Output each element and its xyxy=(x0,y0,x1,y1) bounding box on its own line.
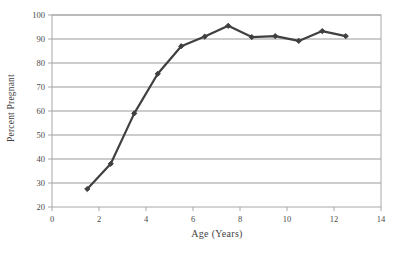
data-series-line xyxy=(87,26,346,189)
gridlines-group xyxy=(52,15,381,183)
x-tick-label: 6 xyxy=(191,214,195,224)
x-tick-label: 14 xyxy=(377,214,386,224)
y-tick-label: 80 xyxy=(37,58,46,68)
y-axis-ticks-group: 2030405060708090100 xyxy=(32,10,52,212)
y-tick-label: 100 xyxy=(32,10,45,20)
x-tick-label: 2 xyxy=(97,214,101,224)
x-tick-label: 0 xyxy=(50,214,54,224)
chart-container: Percent Pregnant 2030405060708090100 024… xyxy=(0,0,394,258)
y-tick-label: 60 xyxy=(37,106,46,116)
x-tick-label: 12 xyxy=(330,214,339,224)
x-axis-title: Age (Years) xyxy=(52,228,382,239)
data-point-marker xyxy=(343,34,348,39)
x-tick-label: 10 xyxy=(283,214,292,224)
x-tick-label: 4 xyxy=(144,214,149,224)
data-point-marker xyxy=(273,34,278,39)
y-tick-label: 90 xyxy=(37,34,46,44)
y-tick-label: 40 xyxy=(37,154,46,164)
y-tick-label: 20 xyxy=(37,202,46,212)
y-tick-label: 50 xyxy=(37,130,46,140)
data-point-markers xyxy=(85,23,349,191)
y-tick-label: 30 xyxy=(37,178,46,188)
y-tick-label: 70 xyxy=(37,82,46,92)
x-axis-ticks-group: 02468101214 xyxy=(50,207,386,224)
x-tick-label: 8 xyxy=(238,214,242,224)
plot-svg: 2030405060708090100 02468101214 xyxy=(0,0,394,258)
